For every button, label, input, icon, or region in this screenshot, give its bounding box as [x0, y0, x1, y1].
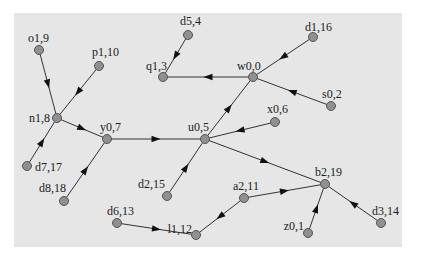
node-label: z0,1	[284, 219, 304, 233]
graph-node	[249, 73, 258, 82]
graph-node	[60, 197, 69, 206]
arrowhead-icon	[75, 86, 83, 95]
arrowhead-icon	[77, 124, 87, 130]
node-label: d1,16	[305, 20, 332, 34]
arrowhead-icon	[312, 204, 318, 214]
node-label: o1,9	[28, 31, 49, 45]
node-label: a2,11	[233, 179, 259, 193]
arrowhead-icon	[280, 189, 289, 195]
arrowhead-icon	[260, 157, 270, 163]
graph-node	[321, 180, 330, 189]
arrowhead-icon	[216, 211, 225, 219]
graph-node	[95, 62, 104, 71]
node-label: p1,10	[92, 45, 119, 59]
arrowhead-icon	[152, 225, 161, 231]
node-label: s0,2	[322, 87, 342, 101]
arrowhead-icon	[80, 166, 88, 175]
node-label: d3,14	[372, 204, 399, 218]
directed-graph: o1,9p1,10n1,8d7,17y0,7d8,18d5,4q1,3w0,0d…	[0, 0, 427, 260]
graph-node	[192, 231, 201, 240]
node-label: w0,0	[237, 59, 261, 73]
arrowhead-icon	[204, 74, 213, 80]
graph-node	[304, 229, 313, 238]
node-label: d5,4	[180, 14, 201, 28]
node-label: d6,13	[107, 204, 134, 218]
node-label: n1,8	[29, 111, 50, 125]
graph-node	[159, 73, 168, 82]
graph-node	[377, 219, 386, 228]
arrowhead-icon	[152, 136, 161, 142]
arrowhead-icon	[44, 79, 50, 89]
graph-node	[113, 219, 122, 228]
graph-node	[184, 31, 193, 40]
node-label: x0,6	[267, 102, 288, 116]
arrowhead-icon	[236, 126, 246, 132]
graph-node	[271, 118, 280, 127]
graph-node	[163, 192, 172, 201]
node-label: b2,19	[315, 165, 342, 179]
arrowhead-icon	[37, 138, 44, 147]
graph-node	[240, 194, 249, 203]
arrowhead-icon	[224, 104, 232, 113]
graph-node	[53, 114, 62, 123]
graph-node	[35, 46, 44, 55]
graph-node	[327, 102, 336, 111]
arrowhead-icon	[181, 164, 189, 173]
node-label: d8,18	[39, 181, 66, 195]
graph-node	[23, 162, 32, 171]
node-label: d7,17	[35, 160, 62, 174]
arrowhead-icon	[173, 50, 180, 59]
arrowhead-icon	[279, 52, 288, 60]
node-label: u0,5	[188, 120, 209, 134]
node-label: l1,12	[168, 222, 192, 236]
arrowhead-icon	[349, 201, 358, 209]
graph-node	[103, 135, 112, 144]
node-label: y0,7	[100, 120, 121, 134]
arrowhead-icon	[288, 90, 298, 96]
graph-node	[201, 135, 210, 144]
node-label: d2,15	[138, 177, 165, 191]
node-label: q1,3	[146, 59, 167, 73]
